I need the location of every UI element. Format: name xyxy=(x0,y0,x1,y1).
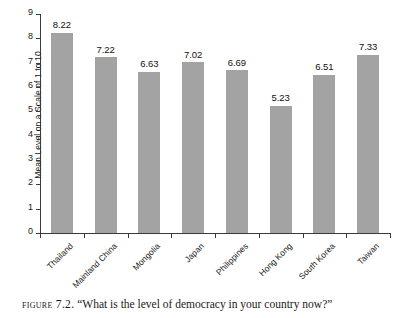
bar: 6.51 xyxy=(313,75,335,233)
bar-value-label: 6.63 xyxy=(140,59,159,69)
plot-area: 0123456789 8.227.226.637.026.695.236.517… xyxy=(40,14,390,233)
bar-value-label: 6.51 xyxy=(315,62,334,72)
x-axis-category-label: South Korea xyxy=(297,241,337,281)
y-axis-tick-label: 7 xyxy=(28,57,33,66)
x-axis-tick xyxy=(390,233,391,238)
y-axis-tick: 9 xyxy=(36,14,40,15)
y-axis-tick-label: 2 xyxy=(28,178,33,187)
bar: 5.23 xyxy=(270,106,292,233)
bar: 7.33 xyxy=(357,55,379,233)
y-axis-tick-label: 1 xyxy=(28,203,33,212)
bar: 6.69 xyxy=(226,70,248,233)
bar-value-label: 6.69 xyxy=(228,58,247,68)
x-axis-tick xyxy=(303,233,304,238)
x-axis-tick xyxy=(346,233,347,238)
x-axis-tick xyxy=(259,233,260,238)
bar: 7.22 xyxy=(95,57,117,233)
y-axis-tick: 8 xyxy=(36,38,40,39)
x-axis-tick xyxy=(171,233,172,238)
y-axis-tick: 3 xyxy=(36,160,40,161)
y-axis-tick: 4 xyxy=(36,136,40,137)
x-axis-tick xyxy=(128,233,129,238)
x-axis-category-label: Hong Kong xyxy=(257,241,294,278)
y-axis-tick-label: 5 xyxy=(28,105,33,114)
x-axis-category-label: Thailand xyxy=(45,241,75,271)
y-axis-tick-label: 6 xyxy=(28,81,33,90)
x-axis-category-label: Japan xyxy=(183,241,206,264)
y-axis-tick-label: 0 xyxy=(28,227,33,236)
y-axis-tick-label: 9 xyxy=(28,8,33,17)
bar: 8.22 xyxy=(51,33,73,233)
x-axis-tick xyxy=(40,233,41,238)
y-axis-line xyxy=(40,14,41,233)
y-axis-tick-label: 4 xyxy=(28,130,33,139)
figure-number: Figure 7.2. xyxy=(22,298,74,310)
y-axis-tick: 6 xyxy=(36,87,40,88)
bar: 6.63 xyxy=(138,72,160,233)
x-axis-category-label: Mongolia xyxy=(131,241,162,272)
y-axis-tick-label: 3 xyxy=(28,154,33,163)
bar-value-label: 7.02 xyxy=(184,50,203,60)
y-axis-tick: 5 xyxy=(36,111,40,112)
bar-value-label: 5.23 xyxy=(271,93,290,103)
x-axis-tick xyxy=(84,233,85,238)
y-axis-tick: 2 xyxy=(36,184,40,185)
y-axis-tick-label: 8 xyxy=(28,32,33,41)
figure-container: Mean Level on a Scale of 1 to 10 0123456… xyxy=(0,0,400,318)
x-axis-category-label: Philippines xyxy=(214,241,250,277)
x-axis-category-label: Taiwan xyxy=(355,241,381,267)
bar-value-label: 8.22 xyxy=(53,20,72,30)
bar: 7.02 xyxy=(182,62,204,233)
y-axis-tick: 7 xyxy=(36,63,40,64)
figure-caption: Figure 7.2. “What is the level of democr… xyxy=(22,298,332,310)
bar-value-label: 7.33 xyxy=(359,42,378,52)
figure-caption-text: “What is the level of democracy in your … xyxy=(77,298,332,310)
y-axis-tick: 1 xyxy=(36,209,40,210)
bar-value-label: 7.22 xyxy=(96,45,115,55)
x-axis-tick xyxy=(215,233,216,238)
x-axis-category-label: Mainland China xyxy=(70,241,119,290)
